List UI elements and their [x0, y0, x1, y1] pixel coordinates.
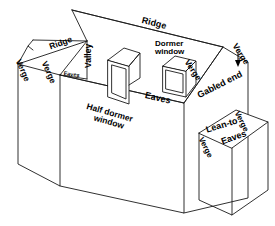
diagram-canvas: Ridge Ridge Verge Verge Eaves Valley Hal… [0, 0, 275, 226]
wing-peak-detail [28, 40, 33, 50]
wing-rear-roof-edge [72, 10, 87, 41]
label-dormer-window: Dormer window [155, 40, 184, 56]
label-dormer-line2: window [155, 48, 184, 56]
label-valley: Valley [84, 44, 93, 68]
half-dormer-inner-pane [112, 65, 126, 99]
dormer-inner-pane [166, 70, 183, 93]
verge-pointer-arrow [230, 52, 246, 70]
